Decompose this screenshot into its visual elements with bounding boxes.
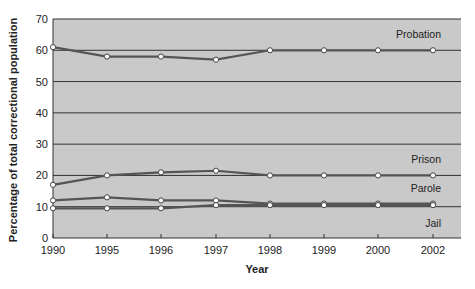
x-tick-label: 1997 xyxy=(204,244,228,256)
y-tick-label: 50 xyxy=(36,76,48,88)
x-tick-label: 1995 xyxy=(95,244,119,256)
y-tick-label: 30 xyxy=(36,138,48,150)
y-tick-label: 40 xyxy=(36,107,48,119)
series-label-prison: Prison xyxy=(411,153,441,165)
y-tick-label: 70 xyxy=(36,13,48,25)
x-tick-label: 2000 xyxy=(366,244,390,256)
data-point-marker xyxy=(158,170,163,175)
data-point-marker xyxy=(50,182,55,187)
data-point-marker xyxy=(158,198,163,203)
data-point-marker xyxy=(430,203,435,208)
data-point-marker xyxy=(321,48,326,53)
y-tick-label: 10 xyxy=(36,201,48,213)
x-tick-label: 1996 xyxy=(149,244,173,256)
data-point-marker xyxy=(213,203,218,208)
y-tick-label: 0 xyxy=(42,232,48,244)
data-point-marker xyxy=(158,54,163,59)
data-point-marker xyxy=(104,206,109,211)
data-point-marker xyxy=(430,48,435,53)
data-point-marker xyxy=(430,173,435,178)
data-point-marker xyxy=(104,195,109,200)
x-axis-label: Year xyxy=(53,263,461,275)
line-chart: 0102030405060701990199519961997199819992… xyxy=(0,0,475,289)
data-point-marker xyxy=(50,45,55,50)
data-point-marker xyxy=(267,203,272,208)
data-point-marker xyxy=(267,173,272,178)
y-tick-label: 20 xyxy=(36,169,48,181)
x-tick-label: 1998 xyxy=(258,244,282,256)
y-axis-label-text: Percentage of total correctional populat… xyxy=(7,18,19,242)
data-point-marker xyxy=(321,203,326,208)
data-point-marker xyxy=(50,198,55,203)
data-point-marker xyxy=(267,48,272,53)
data-point-marker xyxy=(104,54,109,59)
data-point-marker xyxy=(50,206,55,211)
data-point-marker xyxy=(375,173,380,178)
x-tick-label: 2002 xyxy=(421,244,445,256)
data-point-marker xyxy=(104,173,109,178)
data-point-marker xyxy=(158,206,163,211)
y-axis-label: Percentage of total correctional populat… xyxy=(4,20,22,240)
series-label-jail: Jail xyxy=(425,217,441,229)
series-label-probation: Probation xyxy=(396,28,441,40)
data-point-marker xyxy=(213,168,218,173)
x-tick-label: 1990 xyxy=(41,244,65,256)
series-label-parole: Parole xyxy=(411,182,442,194)
data-point-marker xyxy=(375,48,380,53)
data-point-marker xyxy=(321,173,326,178)
y-tick-label: 60 xyxy=(36,44,48,56)
x-tick-label: 1999 xyxy=(312,244,336,256)
data-point-marker xyxy=(213,57,218,62)
data-point-marker xyxy=(375,203,380,208)
